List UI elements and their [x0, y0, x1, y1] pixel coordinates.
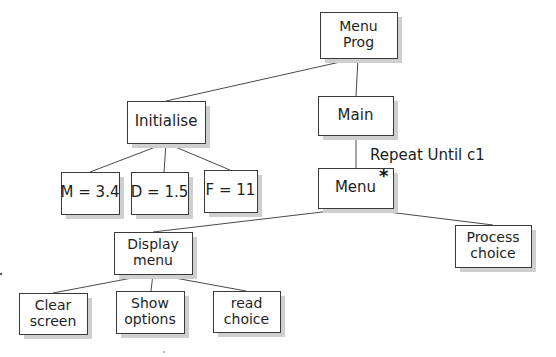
scan-dot: [163, 351, 165, 353]
node-clear-screen: Clearscreen: [20, 294, 93, 340]
node-label: Process: [466, 229, 519, 245]
node-label: Clear: [35, 297, 72, 313]
node-label: Menu: [339, 18, 377, 34]
node-label: M = 3.4: [61, 183, 120, 201]
node-label: Initialise: [135, 112, 198, 130]
node-label: menu: [133, 252, 173, 268]
node-label: screen: [30, 313, 77, 329]
structure-chart: MenuProgInitialiseMainM = 3.4D = 1.5F = …: [0, 0, 556, 357]
node-show-options: Showoptions: [117, 292, 190, 339]
node-f: F = 11: [205, 171, 263, 218]
node-initialise: Initialise: [128, 102, 211, 149]
node-main: Main: [319, 97, 399, 141]
node-label: read: [231, 295, 263, 311]
nodes: MenuProgInitialiseMainM = 3.4D = 1.5F = …: [20, 13, 537, 340]
node-menu-prog: MenuProg: [321, 13, 403, 64]
node-label: Prog: [343, 34, 374, 50]
node-label: choice: [224, 311, 269, 327]
node-display-menu: Displaymenu: [115, 233, 198, 280]
node-label: D = 1.5: [131, 183, 189, 201]
node-label: choice: [470, 245, 515, 261]
node-d: D = 1.5: [131, 173, 193, 220]
edge-menuprog-initialise: [166, 58, 358, 101]
node-label: options: [124, 311, 176, 327]
node-label: Show: [131, 295, 169, 311]
node-read-choice: readchoice: [214, 292, 286, 338]
scan-dot: [0, 273, 2, 275]
edge-menuprog-main: [356, 58, 358, 96]
node-label: Main: [338, 106, 374, 124]
node-label: Menu: [335, 178, 376, 196]
node-label: Display: [127, 236, 179, 252]
node-m: M = 3.4: [61, 173, 124, 220]
iteration-star-icon: *: [379, 165, 389, 186]
node-process-choice: Processchoice: [456, 226, 537, 273]
node-label: F = 11: [206, 181, 256, 199]
repeat-condition-label: Repeat Until c1: [370, 146, 485, 164]
